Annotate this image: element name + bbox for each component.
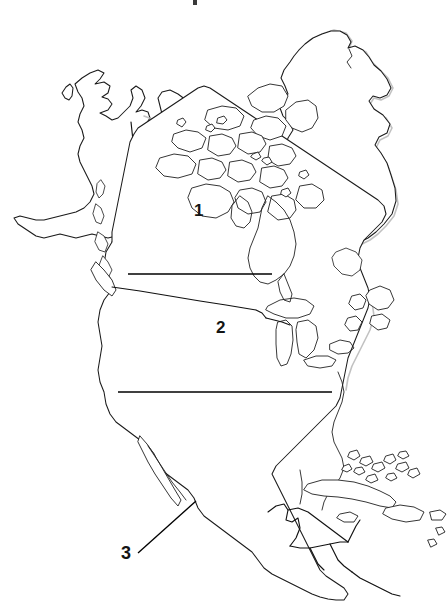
map-label-2[interactable]: 2 bbox=[216, 319, 225, 336]
north-america-map bbox=[0, 0, 447, 613]
map-label-3[interactable]: 3 bbox=[121, 544, 131, 562]
pointer-line-3 bbox=[138, 501, 196, 553]
pointer-lines bbox=[138, 501, 196, 553]
map-page: 1 2 3 bbox=[0, 0, 447, 613]
map-label-1[interactable]: 1 bbox=[194, 202, 203, 219]
